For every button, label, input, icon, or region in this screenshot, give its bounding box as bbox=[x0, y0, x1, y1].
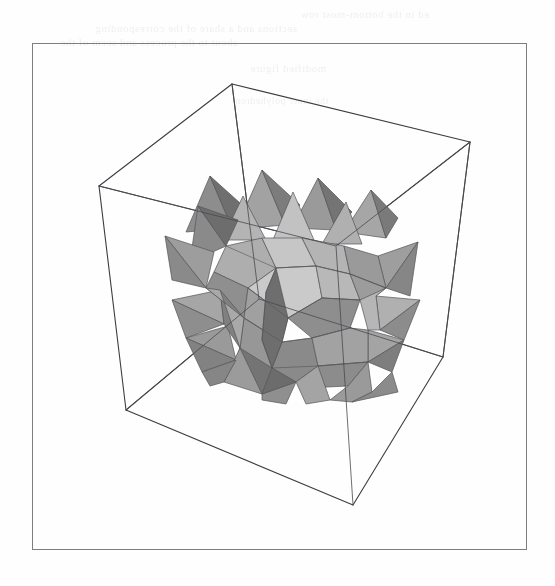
figure-svg bbox=[0, 0, 555, 586]
figure-page: ed in the bottom-most rowsections and a … bbox=[0, 0, 555, 586]
